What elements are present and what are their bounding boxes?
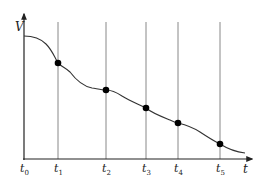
reference-lines [58, 22, 220, 159]
point-t1 [55, 60, 62, 67]
point-t5 [217, 141, 224, 148]
point-t3 [143, 105, 150, 112]
x-axis-label: t [243, 162, 248, 176]
y-axis-label: V [15, 20, 25, 34]
tick-labels: t0 t1 t2 t3 t4 t5 [20, 162, 225, 177]
intersection-points [55, 60, 224, 148]
tick-t4: t4 [174, 162, 183, 177]
tick-t5: t5 [216, 162, 225, 177]
point-t2 [103, 87, 110, 94]
v-curve [24, 36, 245, 153]
tick-t3: t3 [142, 162, 151, 177]
tick-t1: t1 [54, 162, 63, 177]
chart-canvas: V t t0 t1 t2 t3 t4 t5 [0, 0, 263, 186]
point-t4 [175, 120, 182, 127]
tick-t2: t2 [102, 162, 111, 177]
tick-t0: t0 [20, 162, 29, 177]
